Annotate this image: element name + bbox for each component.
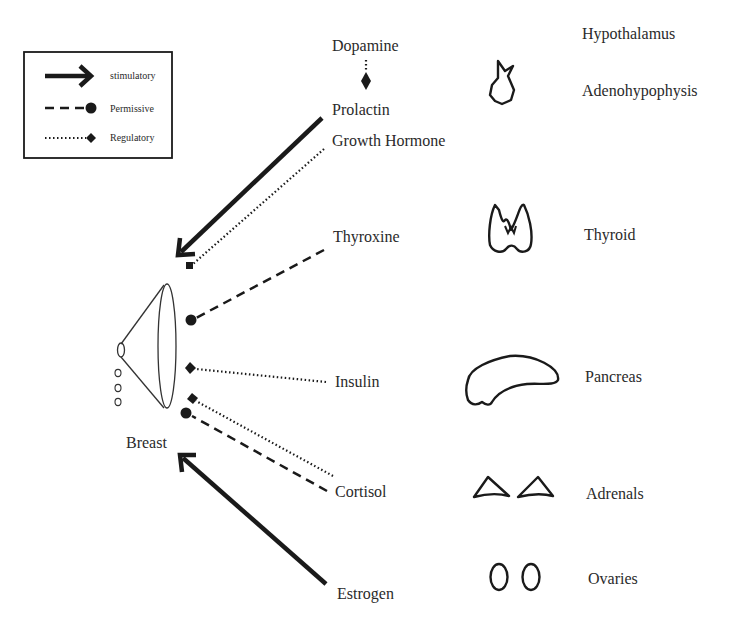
pancreas-icon bbox=[466, 356, 558, 405]
legend: stimulatory Permissive Regulatory bbox=[24, 52, 172, 158]
hormone-estrogen: Estrogen bbox=[337, 585, 394, 603]
hormone-cortisol: Cortisol bbox=[335, 483, 387, 500]
legend-permissive-label: Permissive bbox=[110, 103, 154, 114]
dopamine-regulatory-connector bbox=[361, 60, 371, 90]
cortisol-regulatory-line bbox=[187, 393, 333, 476]
hormone-growth-hormone: Growth Hormone bbox=[332, 132, 445, 149]
hormone-diagram: stimulatory Permissive Regulatory Dopami… bbox=[0, 0, 735, 630]
hormone-dopamine: Dopamine bbox=[332, 37, 399, 55]
pituitary-icon bbox=[490, 61, 514, 104]
thyroxine-permissive-line bbox=[186, 250, 325, 326]
breast-icon bbox=[115, 284, 176, 408]
legend-regulatory-label: Regulatory bbox=[110, 132, 154, 143]
breast-label: Breast bbox=[126, 434, 167, 451]
gland-ovaries: Ovaries bbox=[588, 570, 638, 587]
gland-pancreas: Pancreas bbox=[585, 368, 642, 385]
estrogen-stimulatory-arrow bbox=[180, 455, 326, 584]
ovaries-icon bbox=[491, 564, 540, 590]
hormone-insulin: Insulin bbox=[335, 373, 379, 390]
adrenals-icon bbox=[474, 477, 553, 497]
growth-hormone-regulatory-line bbox=[186, 149, 324, 269]
hormone-prolactin: Prolactin bbox=[332, 101, 390, 118]
gland-hypothalamus: Hypothalamus bbox=[582, 25, 675, 43]
legend-stimulatory-label: stimulatory bbox=[110, 70, 156, 81]
insulin-regulatory-line bbox=[185, 362, 326, 382]
cortisol-permissive-line bbox=[181, 408, 328, 492]
prolactin-stimulatory-arrow bbox=[178, 118, 322, 255]
gland-adrenals: Adrenals bbox=[586, 485, 644, 502]
hormone-thyroxine: Thyroxine bbox=[333, 228, 400, 246]
gland-thyroid: Thyroid bbox=[584, 226, 636, 244]
gland-adenohypophysis: Adenohypophysis bbox=[582, 82, 698, 100]
